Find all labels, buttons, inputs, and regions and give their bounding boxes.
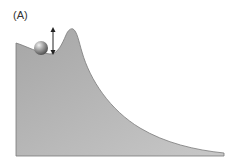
ball [34,41,48,55]
barrier-height-arrow [51,27,56,55]
energy-landscape-diagram [0,0,228,159]
